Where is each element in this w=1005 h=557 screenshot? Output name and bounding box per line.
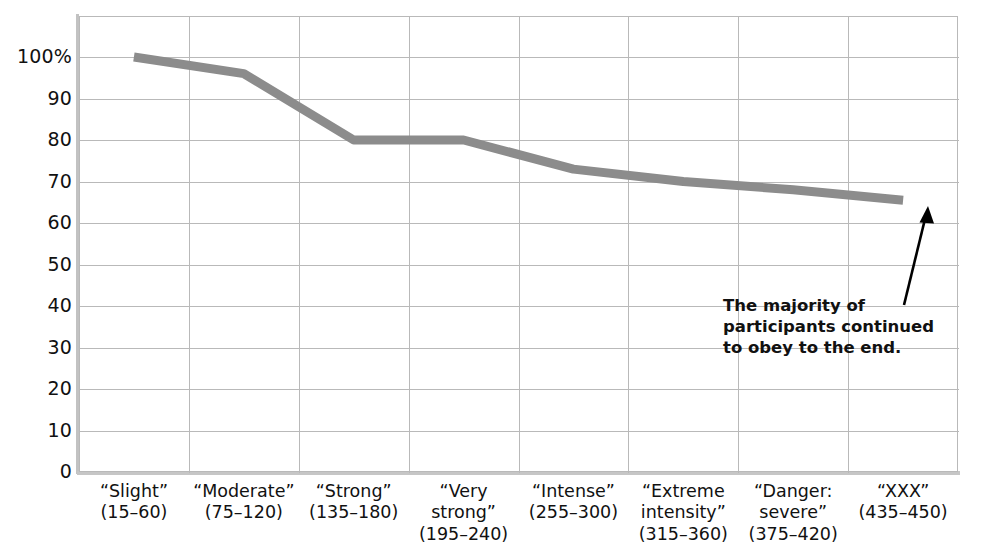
gridline-horizontal	[80, 223, 959, 224]
y-tick-label: 0	[60, 462, 72, 481]
x-tick-label: “Slight” (15–60)	[79, 481, 189, 524]
gridline-horizontal	[80, 265, 959, 266]
y-tick-label: 40	[47, 296, 72, 315]
x-tick-label: “Moderate” (75–120)	[189, 481, 299, 524]
gridline-horizontal	[80, 99, 959, 100]
gridline-horizontal	[80, 182, 959, 183]
x-tick-label: “Extreme intensity” (315–360)	[628, 481, 738, 545]
y-tick-label: 10	[47, 421, 72, 440]
gridline-vertical	[299, 17, 300, 473]
gridline-horizontal	[80, 389, 959, 390]
y-tick-label: 50	[47, 255, 72, 274]
gridline-vertical	[628, 17, 629, 473]
y-tick-label: 60	[47, 213, 72, 232]
gridline-vertical	[848, 17, 849, 473]
annotation-text: The majority of participants continued t…	[723, 295, 938, 358]
x-tick-label: “XXX” (435–450)	[848, 481, 958, 524]
y-tick-label: 100%	[17, 47, 72, 66]
y-tick-label: 80	[47, 130, 72, 149]
y-tick-label: 90	[47, 89, 72, 108]
gridline-vertical	[409, 17, 410, 473]
chart-canvas: 0102030405060708090100% “Slight” (15–60)…	[0, 0, 1005, 557]
gridline-horizontal	[80, 140, 959, 141]
gridline-horizontal	[80, 57, 959, 58]
y-tick-label: 30	[47, 338, 72, 357]
gridline-vertical	[189, 17, 190, 473]
x-tick-label: “Very strong” (195–240)	[409, 481, 519, 545]
plot-area	[79, 16, 958, 472]
y-tick-label: 70	[47, 172, 72, 191]
gridline-vertical	[738, 17, 739, 473]
gridline-vertical	[519, 17, 520, 473]
x-tick-label: “Strong” (135–180)	[299, 481, 409, 524]
x-tick-label: “Danger: severe” (375–420)	[738, 481, 848, 545]
x-tick-label: “Intense” (255–300)	[519, 481, 629, 524]
y-tick-label: 20	[47, 379, 72, 398]
gridline-horizontal	[80, 431, 959, 432]
